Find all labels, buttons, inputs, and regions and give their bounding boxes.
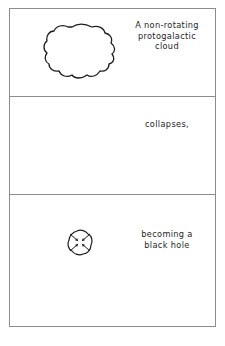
panel-2-caption-line-1: collapses, [118, 119, 216, 130]
panel-3 [10, 194, 215, 326]
panel-1-caption-line-2: protogalactic [118, 31, 216, 42]
panel-1-caption: A non-rotating protogalactic cloud [118, 20, 216, 52]
panel-3-caption-line-1: becoming a [118, 229, 216, 240]
figure-container: A non-rotating protogalactic cloud colla… [0, 0, 225, 346]
panel-3-caption-line-2: black hole [118, 240, 216, 251]
panel-1-caption-line-3: cloud [118, 41, 216, 52]
figure-frame: A non-rotating protogalactic cloud colla… [9, 8, 216, 327]
panel-1-caption-line-1: A non-rotating [118, 20, 216, 31]
panel-2-caption: collapses, [118, 119, 216, 130]
panel-2 [10, 96, 215, 194]
panel-3-caption: becoming a black hole [118, 229, 216, 250]
protogalactic-cloud-icon [42, 21, 120, 91]
